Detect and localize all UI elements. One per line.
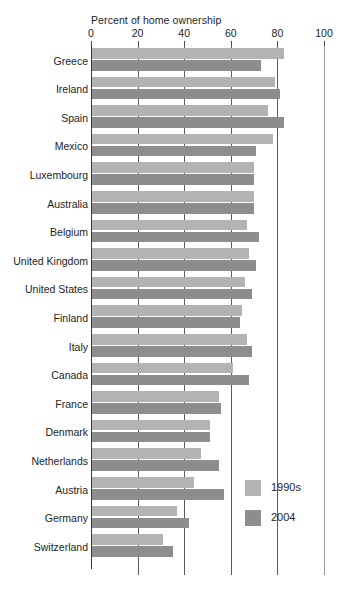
bar-group: Greece	[0, 48, 339, 77]
bar-1990s-italy	[92, 334, 247, 345]
bar-1990s-luxembourg	[92, 162, 254, 173]
bar-1990s-spain	[92, 105, 268, 116]
bar-group: Belgium	[0, 220, 339, 249]
bar-2004-austria	[92, 489, 224, 500]
category-label-spain: Spain	[61, 113, 88, 124]
bar-1990s-greece	[92, 48, 284, 59]
chart-legend: 1990s2004	[245, 480, 335, 540]
bar-2004-italy	[92, 346, 252, 357]
category-label-belgium: Belgium	[50, 227, 88, 238]
bar-1990s-united-kingdom	[92, 248, 249, 259]
bar-group: United States	[0, 277, 339, 306]
category-label-united-states: United States	[25, 284, 88, 295]
bar-group: France	[0, 391, 339, 420]
category-label-germany: Germany	[45, 513, 88, 524]
x-tick-label-40: 40	[178, 27, 190, 39]
bar-2004-belgium	[92, 232, 259, 243]
bar-1990s-mexico	[92, 134, 273, 145]
x-axis-tick-labels: 020406080100	[0, 27, 339, 41]
bar-1990s-united-states	[92, 277, 245, 288]
category-label-canada: Canada	[51, 370, 88, 381]
bar-1990s-belgium	[92, 220, 247, 231]
bar-1990s-denmark	[92, 420, 210, 431]
category-label-ireland: Ireland	[56, 84, 88, 95]
bar-group: Italy	[0, 334, 339, 363]
category-label-mexico: Mexico	[55, 141, 88, 152]
bar-2004-spain	[92, 117, 284, 128]
category-label-denmark: Denmark	[45, 427, 88, 438]
category-label-greece: Greece	[54, 56, 88, 67]
bar-1990s-france	[92, 391, 219, 402]
bar-2004-mexico	[92, 146, 256, 157]
bar-1990s-ireland	[92, 77, 275, 88]
bar-2004-united-states	[92, 289, 252, 300]
bar-2004-france	[92, 403, 221, 414]
category-label-switzerland: Switzerland	[34, 542, 88, 553]
home-ownership-bar-chart: Percent of home ownership 020406080100 G…	[0, 0, 339, 595]
plot-area: GreeceIrelandSpainMexicoLuxembourgAustra…	[0, 46, 339, 588]
category-label-australia: Australia	[47, 199, 88, 210]
legend-label-1990s: 1990s	[271, 481, 301, 493]
bar-group: Denmark	[0, 420, 339, 449]
bar-group: Netherlands	[0, 448, 339, 477]
x-tick-label-20: 20	[132, 27, 144, 39]
bar-1990s-switzerland	[92, 534, 163, 545]
x-tick-label-0: 0	[88, 27, 94, 39]
x-tick-label-80: 80	[272, 27, 284, 39]
bar-2004-ireland	[92, 89, 280, 100]
bar-group: Luxembourg	[0, 162, 339, 191]
category-label-finland: Finland	[54, 313, 88, 324]
category-label-austria: Austria	[55, 485, 88, 496]
bar-1990s-germany	[92, 506, 177, 517]
legend-swatch-1990s	[245, 480, 261, 496]
bar-1990s-finland	[92, 305, 242, 316]
bar-1990s-austria	[92, 477, 194, 488]
bar-1990s-netherlands	[92, 448, 201, 459]
bar-2004-switzerland	[92, 546, 173, 557]
bar-2004-united-kingdom	[92, 260, 256, 271]
category-label-netherlands: Netherlands	[31, 456, 88, 467]
bar-2004-luxembourg	[92, 174, 254, 185]
bar-1990s-canada	[92, 363, 233, 374]
bar-group: United Kingdom	[0, 248, 339, 277]
bar-1990s-australia	[92, 191, 254, 202]
bar-group: Spain	[0, 105, 339, 134]
x-axis-title: Percent of home ownership	[91, 14, 221, 26]
bar-group: Mexico	[0, 134, 339, 163]
category-label-italy: Italy	[69, 342, 88, 353]
x-tick-label-100: 100	[315, 27, 333, 39]
category-label-france: France	[55, 399, 88, 410]
bar-2004-canada	[92, 375, 249, 386]
x-tick-label-60: 60	[225, 27, 237, 39]
bar-2004-finland	[92, 317, 240, 328]
bar-2004-australia	[92, 203, 254, 214]
bar-2004-germany	[92, 518, 189, 529]
legend-swatch-2004	[245, 510, 261, 526]
category-label-luxembourg: Luxembourg	[30, 170, 88, 181]
bar-2004-greece	[92, 60, 261, 71]
bar-group: Canada	[0, 363, 339, 392]
bar-2004-netherlands	[92, 460, 219, 471]
category-label-united-kingdom: United Kingdom	[13, 256, 88, 267]
bar-2004-denmark	[92, 432, 210, 443]
bar-group: Australia	[0, 191, 339, 220]
legend-label-2004: 2004	[271, 511, 295, 523]
bar-group: Finland	[0, 305, 339, 334]
bar-group: Ireland	[0, 77, 339, 106]
